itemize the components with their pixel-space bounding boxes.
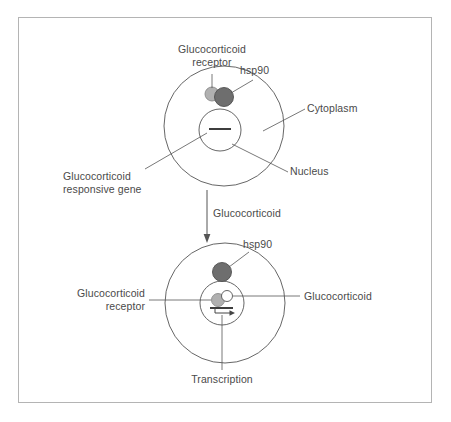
leader-responsive-gene <box>145 133 207 169</box>
label-bottom-hsp90: hsp90 <box>243 238 272 251</box>
label-nucleus: Nucleus <box>290 165 329 178</box>
label-bottom-receptor: Glucocorticoid receptor <box>29 287 145 313</box>
transcription-arrow-head <box>230 310 236 315</box>
label-glucocorticoid-arrow: Glucocorticoid <box>213 207 281 220</box>
label-bottom-glucocorticoid: Glucocorticoid <box>304 290 372 303</box>
label-top-hsp90: hsp90 <box>240 64 269 77</box>
bottom-cell-membrane <box>165 243 285 363</box>
top-nucleus-membrane <box>199 109 241 151</box>
leader-top-hsp90 <box>231 80 253 93</box>
figure-canvas: Glucocorticoid receptor hsp90 Cytoplasm … <box>0 0 451 422</box>
label-cytoplasm: Cytoplasm <box>307 102 358 115</box>
top-hsp90 <box>215 88 234 107</box>
leader-bottom-hsp90 <box>229 252 249 267</box>
bottom-hsp90 <box>213 263 232 282</box>
label-responsive-gene: Glucocorticoid responsive gene <box>63 170 163 196</box>
bottom-glucocorticoid-molecule <box>222 291 233 302</box>
transition-arrow-head <box>204 234 211 243</box>
label-transcription: Transcription <box>167 373 277 386</box>
top-cell-membrane <box>164 66 284 186</box>
